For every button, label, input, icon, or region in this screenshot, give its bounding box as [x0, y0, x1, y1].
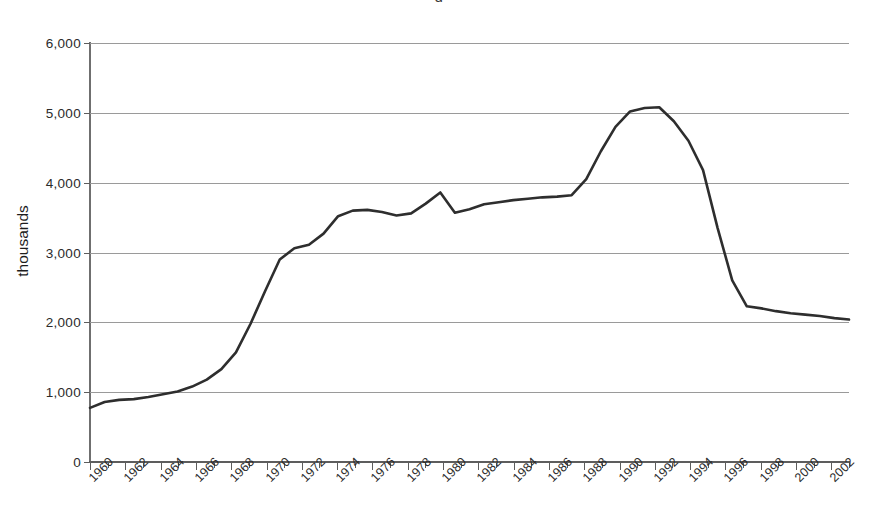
clipped-title: g — [0, 0, 878, 2]
y-tick-label: 1,000 — [46, 385, 81, 400]
y-axis-title: thousands — [14, 176, 32, 306]
data-series-line — [90, 43, 849, 462]
y-tick-label: 3,000 — [46, 245, 81, 260]
y-tick-label: 4,000 — [46, 175, 81, 190]
y-tick-label: 5,000 — [46, 105, 81, 120]
line-chart: g thousands 01,0002,0003,0004,0005,0006,… — [0, 0, 878, 531]
plot-area: 01,0002,0003,0004,0005,0006,000 19601962… — [90, 43, 849, 462]
y-tick-label: 2,000 — [46, 315, 81, 330]
y-tick-label: 0 — [73, 455, 81, 470]
y-tick-label: 6,000 — [46, 36, 81, 51]
